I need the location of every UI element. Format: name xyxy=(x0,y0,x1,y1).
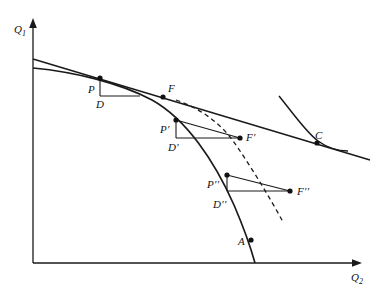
price-line xyxy=(33,59,370,160)
point-marker-Fdoubleprime xyxy=(287,188,292,193)
point-label-F: F xyxy=(168,83,175,94)
point-label-Pdoubleprime: P′′ xyxy=(207,179,219,190)
point-label-P: P xyxy=(88,84,95,95)
y-axis-arrowhead xyxy=(29,18,37,28)
point-marker-A xyxy=(248,237,253,242)
point-label-A: A xyxy=(238,236,245,247)
triangle-pprime-hypotenuse xyxy=(176,120,240,138)
point-marker-C xyxy=(314,140,319,145)
triangle-pprime-dprime-fprime xyxy=(176,120,240,138)
point-label-Fdoubleprime: F′′ xyxy=(297,186,309,197)
point-label-Pprime: P′ xyxy=(160,124,170,135)
point-marker-Pprime xyxy=(173,117,178,122)
y-axis-label-text: Q xyxy=(14,23,22,35)
point-marker-Pdoubleprime xyxy=(224,172,229,177)
x-axis-label-subscript: 2 xyxy=(359,277,363,286)
x-axis-arrowhead xyxy=(352,259,362,267)
point-label-Ddoubleprime: D′′ xyxy=(213,199,227,210)
triangle-pdoubleprime-ddoubleprime-fdoubleprime xyxy=(227,175,290,191)
x-axis-label: Q2 xyxy=(351,272,363,286)
point-marker-F xyxy=(160,94,165,99)
point-label-C: C xyxy=(315,130,322,141)
point-label-Fprime: F′ xyxy=(246,132,256,143)
marker-dots-group xyxy=(97,75,319,242)
ppf-diagram-figure: Q1 Q2 P D F P′ D′ F′ P′′ D′′ F′′ A C xyxy=(0,0,383,297)
point-label-D: D xyxy=(96,99,104,110)
y-axis-label-subscript: 1 xyxy=(22,29,26,38)
point-marker-P xyxy=(97,75,102,80)
diagram-canvas xyxy=(0,0,383,297)
point-label-Dprime: D′ xyxy=(168,142,179,153)
point-marker-Fprime xyxy=(237,135,242,140)
ppf-curve xyxy=(33,68,255,263)
y-axis-label: Q1 xyxy=(14,24,26,38)
x-axis-label-text: Q xyxy=(351,271,359,283)
triangle-pdoubleprime-hypotenuse xyxy=(227,175,290,191)
